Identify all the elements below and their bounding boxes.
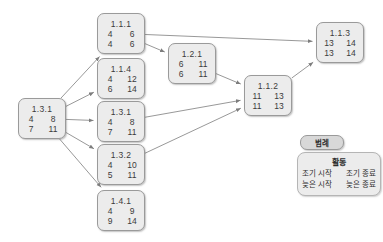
- node-id-label: 1.3.1: [32, 104, 52, 114]
- node-1-3-1-mid[interactable]: 1.3.1 4 8 7 11: [97, 101, 145, 142]
- node-early-row: 4 8: [19, 114, 65, 124]
- late-start-value: 7: [104, 127, 116, 137]
- late-start-value: 7: [25, 124, 37, 134]
- node-start-1-3-1[interactable]: 1.3.1 4 8 7 11: [18, 98, 66, 139]
- early-finish-value: 9: [126, 206, 138, 216]
- node-1-3-2[interactable]: 1.3.2 4 10 5 11: [97, 144, 145, 185]
- edge-1-1-1-to-1-1-3: [145, 34, 313, 41]
- node-1-1-1[interactable]: 1.1.1 4 6 4 6: [97, 13, 145, 54]
- late-start-value: 13: [323, 48, 335, 58]
- late-finish-value: 11: [126, 170, 138, 180]
- node-1-2-1[interactable]: 1.2.1 6 11 6 11: [168, 43, 216, 84]
- node-id-label: 1.1.1: [111, 19, 131, 29]
- late-start-value: 11: [251, 101, 263, 111]
- early-start-value: 4: [25, 114, 37, 124]
- node-id-label: 1.1.2: [258, 81, 278, 91]
- node-early-row: 4 6: [98, 29, 144, 39]
- legend-box: 활동 조기 시작 조기 종료 늦은 시작 늦은 종료: [297, 152, 381, 196]
- node-id-label: 1.1.3: [330, 28, 350, 38]
- node-late-row: 7 11: [98, 127, 144, 137]
- edge-1-1-1-to-1-2-1: [145, 44, 165, 52]
- early-finish-value: 6: [126, 29, 138, 39]
- legend-late-finish-label: 늦은 종료: [346, 179, 376, 190]
- late-finish-value: 11: [126, 127, 138, 137]
- early-start-value: 4: [104, 29, 116, 39]
- node-early-row: 4 8: [98, 117, 144, 127]
- node-early-row: 11 13: [245, 91, 291, 101]
- legend-late-start-label: 늦은 시작: [302, 179, 332, 190]
- node-late-row: 11 13: [245, 101, 291, 111]
- node-late-row: 4 6: [98, 39, 144, 49]
- early-finish-value: 12: [126, 74, 138, 84]
- node-1-1-3[interactable]: 1.1.3 13 14 13 14: [316, 22, 364, 63]
- legend-early-row: 조기 시작 조기 종료: [298, 168, 380, 179]
- late-finish-value: 11: [47, 124, 59, 134]
- node-late-row: 13 14: [317, 48, 363, 58]
- edge-1-3-1-to-1-1-4: [66, 92, 94, 106]
- early-finish-value: 14: [345, 38, 357, 48]
- early-start-value: 4: [104, 160, 116, 170]
- node-late-row: 5 11: [98, 170, 144, 180]
- edge-1-1-2-to-1-1-3: [292, 62, 313, 78]
- node-early-row: 4 12: [98, 74, 144, 84]
- late-start-value: 6: [104, 84, 116, 94]
- node-1-4-1[interactable]: 1.4.1 4 9 9 14: [97, 190, 145, 231]
- network-diagram-canvas: 1.3.1 4 8 7 11 1.1.1 4 6 4 6 1.1.4 4 12 …: [0, 0, 383, 242]
- legend-pill: 범례: [300, 135, 344, 150]
- edge-1-3-1-to-1-1-1: [61, 57, 100, 98]
- early-start-value: 4: [104, 206, 116, 216]
- early-start-value: 4: [104, 74, 116, 84]
- late-finish-value: 11: [197, 69, 209, 79]
- early-finish-value: 11: [197, 59, 209, 69]
- node-id-label: 1.1.4: [111, 64, 131, 74]
- legend-early-finish-label: 조기 종료: [346, 168, 376, 179]
- late-finish-value: 6: [126, 39, 138, 49]
- node-id-label: 1.3.2: [111, 150, 131, 160]
- node-id-label: 1.4.1: [111, 196, 131, 206]
- node-1-1-4[interactable]: 1.1.4 4 12 6 14: [97, 58, 145, 99]
- early-finish-value: 13: [273, 91, 285, 101]
- late-finish-value: 14: [126, 216, 138, 226]
- node-early-row: 4 10: [98, 160, 144, 170]
- edge-1-2-1-to-1-1-2: [216, 74, 241, 84]
- early-finish-value: 10: [126, 160, 138, 170]
- late-finish-value: 14: [126, 84, 138, 94]
- node-early-row: 4 9: [98, 206, 144, 216]
- late-finish-value: 13: [273, 101, 285, 111]
- early-start-value: 13: [323, 38, 335, 48]
- node-early-row: 6 11: [169, 59, 215, 69]
- late-finish-value: 14: [345, 48, 357, 58]
- edge-1-3-1-to-1-3-1: [66, 119, 94, 120]
- legend-pill-label: 범례: [315, 137, 329, 148]
- legend-early-start-label: 조기 시작: [302, 168, 332, 179]
- late-start-value: 4: [104, 39, 116, 49]
- early-start-value: 6: [175, 59, 187, 69]
- node-late-row: 7 11: [19, 124, 65, 134]
- early-finish-value: 8: [47, 114, 59, 124]
- early-finish-value: 8: [126, 117, 138, 127]
- node-1-1-2[interactable]: 1.1.2 11 13 11 13: [244, 75, 292, 116]
- node-late-row: 6 11: [169, 69, 215, 79]
- edge-1-3-1-to-1-3-2: [66, 132, 94, 148]
- legend-late-row: 늦은 시작 늦은 종료: [298, 179, 380, 190]
- legend-title: 활동: [332, 157, 346, 168]
- node-late-row: 6 14: [98, 84, 144, 94]
- node-early-row: 13 14: [317, 38, 363, 48]
- node-id-label: 1.3.1: [111, 107, 131, 117]
- node-id-label: 1.2.1: [182, 49, 202, 59]
- late-start-value: 5: [104, 170, 116, 180]
- late-start-value: 6: [175, 69, 187, 79]
- node-late-row: 9 14: [98, 216, 144, 226]
- late-start-value: 9: [104, 216, 116, 226]
- early-start-value: 11: [251, 91, 263, 101]
- edge-1-3-1-to-1-4-1: [60, 139, 102, 187]
- early-start-value: 4: [104, 117, 116, 127]
